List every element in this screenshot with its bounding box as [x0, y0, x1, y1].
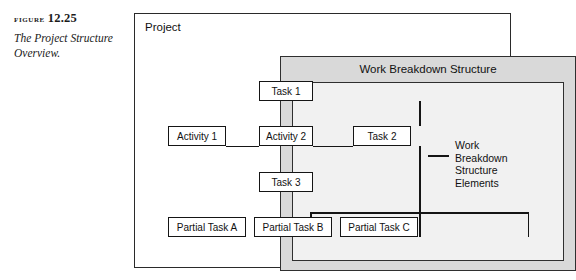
connector-activity2-task2 [313, 146, 353, 148]
wbs-elements-callout: Work Breakdown Structure Elements [455, 139, 508, 189]
node-task-2-label: Task 2 [368, 131, 397, 142]
connector-bus-partial-c [528, 212, 530, 237]
figure-number-line: Figure12.25 [14, 11, 126, 26]
callout-line-1: Work [455, 139, 508, 152]
callout-line-3: Structure [455, 164, 508, 177]
node-activity-1-label: Activity 1 [177, 131, 217, 142]
node-partial-task-c[interactable]: Partial Task C [340, 217, 418, 237]
project-box-label: Project [145, 21, 181, 33]
wbs-elements-box [292, 82, 564, 261]
connector-activity1-activity2 [226, 146, 259, 148]
figure-number: 12.25 [48, 11, 77, 25]
node-partial-task-a[interactable]: Partial Task A [168, 217, 246, 237]
node-task-3-label: Task 3 [272, 177, 301, 188]
node-activity-2-label: Activity 2 [266, 131, 306, 142]
node-task-2[interactable]: Task 2 [353, 126, 411, 146]
node-activity-2[interactable]: Activity 2 [259, 126, 313, 146]
connector-task1-activity2 [419, 101, 421, 126]
node-activity-1[interactable]: Activity 1 [168, 126, 226, 146]
node-partial-task-c-label: Partial Task C [348, 222, 410, 233]
callout-line-2: Breakdown [455, 152, 508, 165]
callout-line-4: Elements [455, 177, 508, 190]
connector-partial-task-bus [310, 212, 529, 214]
work-breakdown-structure-label: Work Breakdown Structure [281, 63, 575, 75]
node-task-1-label: Task 1 [272, 86, 301, 97]
figure-caption-text: The Project Structure Overview. [14, 31, 126, 60]
callout-leader-line [428, 155, 449, 157]
figure-caption-block: Figure12.25 The Project Structure Overvi… [14, 11, 126, 60]
connector-task3-bus [419, 192, 421, 237]
node-partial-task-b[interactable]: Partial Task B [254, 217, 332, 237]
node-partial-task-a-label: Partial Task A [177, 222, 237, 233]
node-partial-task-b-label: Partial Task B [263, 222, 324, 233]
node-task-3[interactable]: Task 3 [259, 172, 313, 192]
figure-label: Figure [14, 13, 45, 24]
connector-activity2-task3 [419, 146, 421, 192]
node-task-1[interactable]: Task 1 [259, 81, 313, 101]
